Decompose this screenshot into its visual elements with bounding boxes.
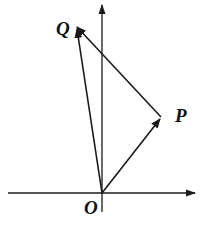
vector-diagram: Q P O <box>0 0 202 237</box>
vector-pq <box>77 27 161 117</box>
vector-op <box>102 119 160 193</box>
diagram-svg: Q P O <box>0 0 202 237</box>
label-o: O <box>84 197 98 218</box>
label-q: Q <box>56 18 70 39</box>
label-p: P <box>174 105 187 126</box>
vector-oq <box>77 29 102 193</box>
